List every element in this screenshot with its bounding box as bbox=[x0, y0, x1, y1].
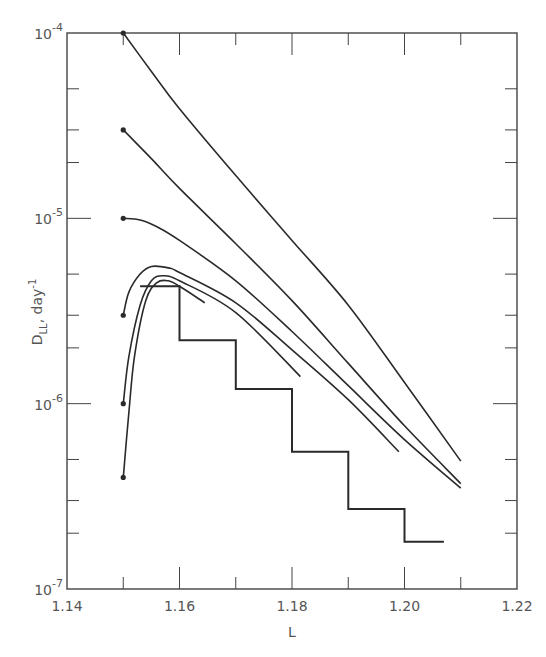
axis-ticks bbox=[67, 33, 517, 589]
start-point-marker bbox=[121, 475, 126, 480]
x-tick-label: 1.20 bbox=[389, 598, 420, 614]
x-tick-label: 1.14 bbox=[51, 598, 82, 614]
y-axis-title-sup: -1 bbox=[27, 279, 38, 289]
start-point-marker bbox=[121, 216, 126, 221]
x-tick-label: 1.22 bbox=[501, 598, 532, 614]
start-point-marker bbox=[121, 313, 126, 318]
x-tick-label: 1.18 bbox=[276, 598, 307, 614]
y-tick-label: 10-7 bbox=[34, 577, 63, 598]
start-point-marker bbox=[121, 401, 126, 406]
y-axis-title-rest: , day bbox=[29, 289, 45, 324]
series-line-curve-start-4e-7 bbox=[123, 280, 205, 477]
start-point-marker bbox=[121, 127, 126, 132]
histogram-steps bbox=[140, 286, 444, 541]
y-tick-label: 10-4 bbox=[34, 21, 63, 42]
y-axis-title: DLL, day-1 bbox=[27, 279, 49, 346]
chart: 1.141.161.181.201.22 10-410-510-610-7 L … bbox=[0, 0, 546, 657]
y-tick-label: 10-6 bbox=[34, 392, 63, 413]
data-series bbox=[121, 30, 461, 541]
x-tick-labels: 1.141.161.181.201.22 bbox=[51, 598, 532, 614]
x-tick-label: 1.16 bbox=[164, 598, 195, 614]
plot-border bbox=[67, 33, 517, 589]
y-axis-title-sub: LL bbox=[38, 323, 49, 335]
start-point-marker bbox=[121, 30, 126, 35]
y-axis-title-main: D bbox=[29, 335, 45, 346]
series-line-curve-start-3e-6 bbox=[123, 266, 399, 452]
plot-frame bbox=[67, 33, 517, 589]
y-tick-label: 10-5 bbox=[34, 206, 63, 227]
x-axis-title: L bbox=[288, 624, 296, 640]
